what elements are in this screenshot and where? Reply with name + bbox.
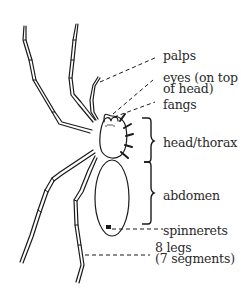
leader-eyes	[113, 80, 153, 114]
brace-head-thorax	[142, 118, 154, 162]
label-spinnerets: spinnerets	[163, 225, 228, 237]
spider-diagram: palps eyes (on top of head) fangs head/t…	[0, 0, 241, 296]
leader-palps	[100, 57, 157, 82]
eyes	[104, 117, 118, 122]
right-legs	[120, 114, 133, 158]
label-abdomen: abdomen	[163, 190, 220, 202]
brace-abdomen	[142, 162, 154, 224]
leg-left-3	[20, 150, 95, 263]
label-head-thorax: head/thorax	[163, 137, 237, 149]
leader-fangs	[114, 102, 155, 117]
eye-dots	[105, 124, 114, 126]
label-legs-line2: (7 segments)	[155, 253, 235, 265]
label-eyes-line2: of head)	[163, 83, 213, 95]
leg-left-4	[74, 156, 97, 283]
label-palps: palps	[163, 50, 196, 62]
spinnerets	[106, 225, 111, 229]
label-fangs: fangs	[163, 99, 197, 111]
abdomen	[95, 160, 129, 236]
palp-left	[90, 77, 100, 120]
